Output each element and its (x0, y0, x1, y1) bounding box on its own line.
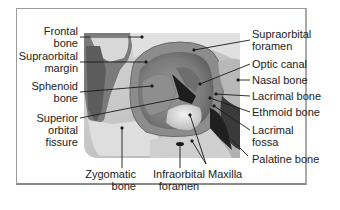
label-lacrimal-bone: Lacrimal bone (252, 90, 332, 102)
label-ethmoid-bone: Ethmoid bone (252, 106, 332, 118)
label-line: orbital (20, 124, 78, 136)
label-line: bone (20, 37, 78, 49)
label-line: Optic canal (252, 58, 322, 70)
label-line: Supraorbital (252, 28, 322, 40)
label-maxilla: Maxilla (208, 168, 248, 180)
label-line: Superior (20, 112, 78, 124)
label-supraorbital-foramen: Supraorbital foramen (252, 28, 322, 52)
label-line: Palatine bone (252, 153, 332, 165)
label-line: margin (14, 62, 78, 74)
label-frontal-bone: Frontal bone (20, 25, 78, 49)
label-infraorbital-foramen: Infraorbital foramen (148, 168, 210, 192)
label-line: foramen (148, 180, 210, 192)
label-line: bone (20, 92, 78, 104)
label-lacrimal-fossa: Lacrimal fossa (252, 124, 312, 148)
label-sphenoid-bone: Sphenoid bone (20, 80, 78, 104)
label-nasal-bone: Nasal bone (252, 74, 322, 86)
infraorbital-foramen-hole (176, 142, 184, 146)
label-line: Lacrimal (252, 124, 312, 136)
label-line: Supraorbital (14, 50, 78, 62)
label-line: Frontal (20, 25, 78, 37)
label-line: Nasal bone (252, 74, 322, 86)
label-line: Maxilla (208, 168, 248, 180)
label-line: Zygomatic (82, 168, 136, 180)
label-line: Infraorbital (148, 168, 210, 180)
label-line: fossa (252, 136, 312, 148)
label-superior-orbital-fissure: Superior orbital fissure (20, 112, 78, 148)
label-line: foramen (252, 40, 322, 52)
label-supraorbital-margin: Supraorbital margin (14, 50, 78, 74)
label-line: Sphenoid (20, 80, 78, 92)
label-palatine-bone: Palatine bone (252, 153, 332, 165)
label-line: bone (82, 180, 136, 192)
label-zygomatic-bone: Zygomatic bone (82, 168, 136, 192)
label-optic-canal: Optic canal (252, 58, 322, 70)
label-line: Ethmoid bone (252, 106, 332, 118)
label-line: Lacrimal bone (252, 90, 332, 102)
label-line: fissure (20, 136, 78, 148)
orbit (130, 42, 223, 137)
